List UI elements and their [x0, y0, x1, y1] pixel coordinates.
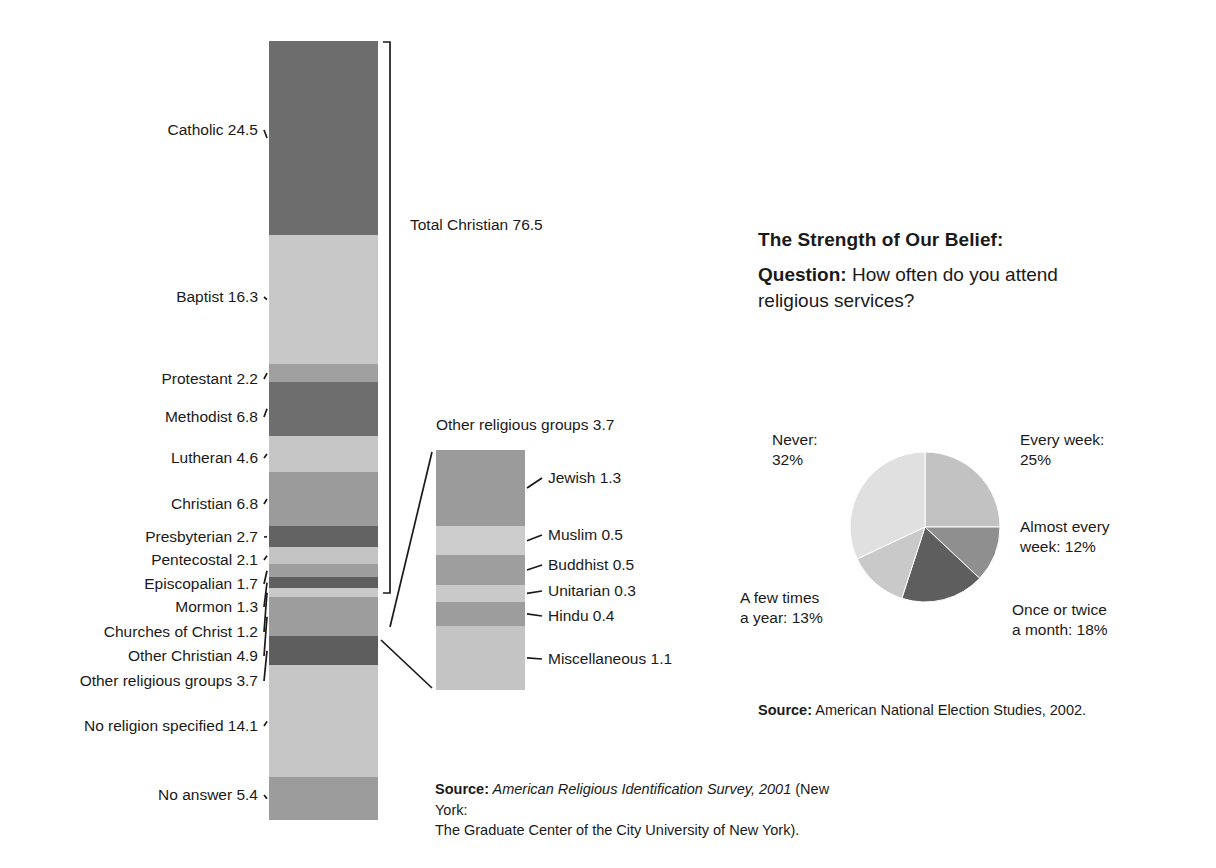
main-bar-leader-line — [264, 583, 267, 607]
main-bar-segment-label: Presbyterian 2.7 — [0, 528, 258, 546]
main-bar-segment — [269, 588, 378, 598]
main-bar-leader-line — [264, 409, 267, 417]
source-bar-italic: American Religious Identification Survey… — [489, 781, 791, 797]
main-bar-segment — [269, 364, 378, 381]
main-bar-segment-label: No answer 5.4 — [0, 786, 258, 804]
sub-bar-segment — [436, 450, 525, 526]
main-bar-leader-line — [264, 130, 267, 138]
main-bar-segment-label: Lutheran 4.6 — [0, 449, 258, 467]
main-bar-segment — [269, 577, 378, 587]
sub-bar-segment — [436, 526, 525, 555]
pie-slice — [902, 527, 980, 602]
main-bar-segment-label: Episcopalian 1.7 — [0, 575, 258, 593]
pie-slice-label: A few times a year: 13% — [740, 588, 823, 628]
source-note-bar: Source: American Religious Identificatio… — [435, 779, 855, 841]
main-bar-segment-label: Churches of Christ 1.2 — [0, 623, 258, 641]
pie-slice-label: Once or twice a month: 18% — [1012, 600, 1108, 640]
source-note-pie: Source: American National Election Studi… — [758, 700, 1198, 721]
main-bar-segment — [269, 526, 378, 547]
sub-bar-segment-label: Muslim 0.5 — [548, 526, 623, 544]
main-bar-segment-label: Christian 6.8 — [0, 495, 258, 513]
main-bar-segment — [269, 436, 378, 472]
main-bar-segment — [269, 777, 378, 820]
main-bar-leader-line — [264, 297, 267, 300]
source-pie-rest: American National Election Studies, 2002… — [812, 702, 1086, 718]
pie-slice — [850, 452, 925, 559]
expansion-connector-bottom — [381, 640, 432, 688]
main-bar-segment-label: Pentecostal 2.1 — [0, 551, 258, 569]
sub-bar-segment-label: Hindu 0.4 — [548, 607, 614, 625]
main-bar-segment — [269, 472, 378, 526]
sub-bar-segment-label: Buddhist 0.5 — [548, 556, 634, 574]
main-bar-segment-label: Protestant 2.2 — [0, 370, 258, 388]
total-christian-label: Total Christian 76.5 — [410, 216, 543, 234]
sub-bar-segment-label: Miscellaneous 1.1 — [548, 650, 672, 668]
main-bar-leader-line — [264, 651, 267, 681]
pie-slice-label: Never: 32% — [772, 430, 818, 470]
pie-slice-label: Almost every week: 12% — [1020, 517, 1110, 557]
main-bar-leader-line — [264, 721, 267, 726]
main-bar-segment-label: No religion specified 14.1 — [0, 717, 258, 735]
main-bar-leader-line — [264, 556, 267, 560]
main-bar-segment-label: Other Christian 4.9 — [0, 647, 258, 665]
main-bar-segment — [269, 41, 378, 235]
belief-panel-title: The Strength of Our Belief: — [758, 229, 1003, 251]
sub-bar-leader-line — [527, 658, 542, 659]
main-bar-segment — [269, 597, 378, 636]
main-bar-segment — [269, 564, 378, 577]
sub-bar-segment — [436, 626, 525, 690]
sub-bar-segment — [436, 602, 525, 625]
main-bar-leader-line — [264, 454, 267, 458]
main-bar-leader-line — [264, 373, 267, 379]
sub-bar-leader-line — [527, 535, 542, 541]
sub-bar-leader-line — [527, 565, 542, 570]
main-stacked-bar — [269, 41, 378, 820]
sub-bar-segment — [436, 585, 525, 603]
question-prefix: Question: — [758, 264, 847, 285]
pie-slice — [925, 527, 1000, 578]
pie-slice — [925, 452, 1000, 527]
pie-slice — [857, 527, 925, 598]
source-bar-prefix: Source: — [435, 781, 489, 797]
main-bar-segment-label: Catholic 24.5 — [0, 121, 258, 139]
main-bar-segment — [269, 547, 378, 564]
main-bar-segment — [269, 636, 378, 665]
expansion-connector-top — [390, 452, 432, 627]
other-religious-groups-bar — [436, 450, 525, 690]
main-bar-segment — [269, 235, 378, 364]
source-bar-line2: The Graduate Center of the City Universi… — [435, 822, 799, 838]
main-bar-leader-line — [264, 795, 267, 799]
main-bar-segment-label: Methodist 6.8 — [0, 408, 258, 426]
sub-bar-segment — [436, 555, 525, 584]
sub-bar-leader-line — [527, 591, 542, 593]
sub-bar-segment-label: Unitarian 0.3 — [548, 582, 636, 600]
main-bar-segment-label: Baptist 16.3 — [0, 288, 258, 306]
sub-bar-leader-line — [527, 614, 542, 616]
main-bar-leader-line — [264, 593, 267, 632]
other-religious-groups-title: Other religious groups 3.7 — [436, 416, 614, 434]
total-christian-bracket — [383, 42, 390, 593]
main-bar-segment-label: Other religious groups 3.7 — [0, 672, 258, 690]
belief-panel-question: Question: How often do you attend religi… — [758, 262, 1058, 314]
main-bar-segment — [269, 665, 378, 777]
infographic-canvas: Catholic 24.5Baptist 16.3Protestant 2.2M… — [0, 0, 1216, 868]
sub-bar-leader-line — [527, 478, 542, 488]
source-pie-prefix: Source: — [758, 702, 812, 718]
pie-slice-label: Every week: 25% — [1020, 430, 1104, 470]
main-bar-segment — [269, 382, 378, 436]
main-bar-segment-label: Mormon 1.3 — [0, 598, 258, 616]
sub-bar-segment-label: Jewish 1.3 — [548, 469, 621, 487]
main-bar-leader-line — [264, 571, 267, 584]
main-bar-leader-line — [264, 617, 267, 656]
main-bar-leader-line — [264, 499, 267, 504]
